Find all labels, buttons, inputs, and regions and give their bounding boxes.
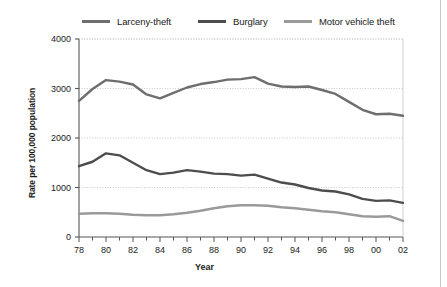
x-axis-title: Year (0, 262, 447, 272)
data-series (79, 77, 403, 221)
y-tick-label-3000: 3000 (37, 84, 71, 94)
axis-lines (75, 39, 403, 242)
y-tick-label-0: 0 (37, 232, 71, 242)
series-line-larceny-theft (79, 77, 403, 116)
y-tick-label-4000: 4000 (37, 34, 71, 44)
x-tick-label-90: 90 (231, 245, 251, 255)
y-tick-label-2000: 2000 (37, 133, 71, 143)
x-tick-label-88: 88 (204, 245, 224, 255)
x-tick-label-86: 86 (177, 245, 197, 255)
x-tick-label-92: 92 (258, 245, 278, 255)
x-tick-label-00: 00 (366, 245, 386, 255)
x-tick-label-80: 80 (96, 245, 116, 255)
y-axis-title: Rate per 100,000 population (27, 63, 37, 223)
x-tick-label-84: 84 (150, 245, 170, 255)
x-tick-label-96: 96 (312, 245, 332, 255)
page-edge-rule (440, 0, 441, 287)
x-tick-label-82: 82 (123, 245, 143, 255)
x-tick-label-98: 98 (339, 245, 359, 255)
y-tick-label-1000: 1000 (37, 183, 71, 193)
gridlines (79, 39, 403, 188)
series-line-motor-vehicle-theft (79, 205, 403, 221)
series-line-burglary (79, 153, 403, 203)
chart-figure: Larceny-theft Burglary Motor vehicle the… (0, 0, 447, 287)
x-tick-label-78: 78 (69, 245, 89, 255)
x-tick-label-02: 02 (393, 245, 413, 255)
x-tick-label-94: 94 (285, 245, 305, 255)
